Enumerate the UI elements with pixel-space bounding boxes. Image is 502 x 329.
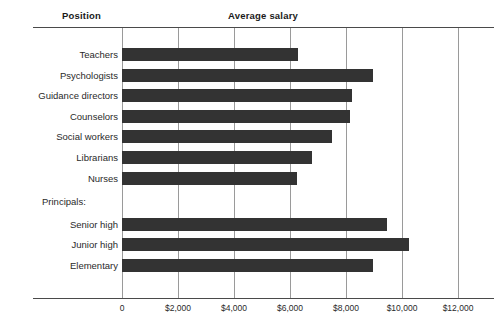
category-label: Nurses	[0, 173, 118, 184]
x-tick-label: $12,000	[443, 303, 474, 313]
category-label: Guidance directors	[0, 90, 118, 101]
category-label: Senior high	[0, 219, 118, 230]
bar	[122, 172, 297, 185]
row-label-wrap: Junior high	[0, 239, 122, 250]
bar	[122, 238, 409, 251]
gridline-10000	[402, 28, 403, 298]
row-label-wrap: Counselors	[0, 111, 122, 122]
x-tick-label: 0	[120, 303, 125, 313]
chart-page: Position Average salary 0$2,000$4,000$6,…	[0, 0, 502, 329]
x-tick-label: $8,000	[333, 303, 359, 313]
row-label-wrap: Teachers	[0, 49, 122, 60]
bar	[122, 259, 373, 272]
x-tick-label: $4,000	[221, 303, 247, 313]
category-label: Social workers	[0, 131, 118, 142]
row-label-wrap: Elementary	[0, 260, 122, 271]
bar	[122, 69, 373, 82]
category-label: Junior high	[0, 239, 118, 250]
x-tick-label: $6,000	[277, 303, 303, 313]
category-label: Librarians	[0, 152, 118, 163]
row-label-wrap: Librarians	[0, 152, 122, 163]
bar	[122, 218, 387, 231]
bar	[122, 130, 332, 143]
category-label: Teachers	[0, 49, 118, 60]
bar	[122, 48, 298, 61]
bar	[122, 110, 350, 123]
row-label-wrap: Social workers	[0, 131, 122, 142]
category-label: Counselors	[0, 111, 118, 122]
row-label-wrap: Nurses	[0, 173, 122, 184]
row-label-wrap: Psychologists	[0, 70, 122, 81]
bar	[122, 89, 352, 102]
x-tick-label: $10,000	[387, 303, 418, 313]
group-heading-principals: Principals:	[42, 196, 86, 207]
plot-area: 0$2,000$4,000$6,000$8,000$10,000$12,000T…	[0, 0, 502, 329]
bar	[122, 151, 312, 164]
row-label-wrap: Guidance directors	[0, 90, 122, 101]
x-axis-line	[33, 298, 494, 299]
gridline-12000	[458, 28, 459, 298]
x-tick-label: $2,000	[165, 303, 191, 313]
row-label-wrap: Senior high	[0, 219, 122, 230]
category-label: Elementary	[0, 260, 118, 271]
category-label: Psychologists	[0, 70, 118, 81]
